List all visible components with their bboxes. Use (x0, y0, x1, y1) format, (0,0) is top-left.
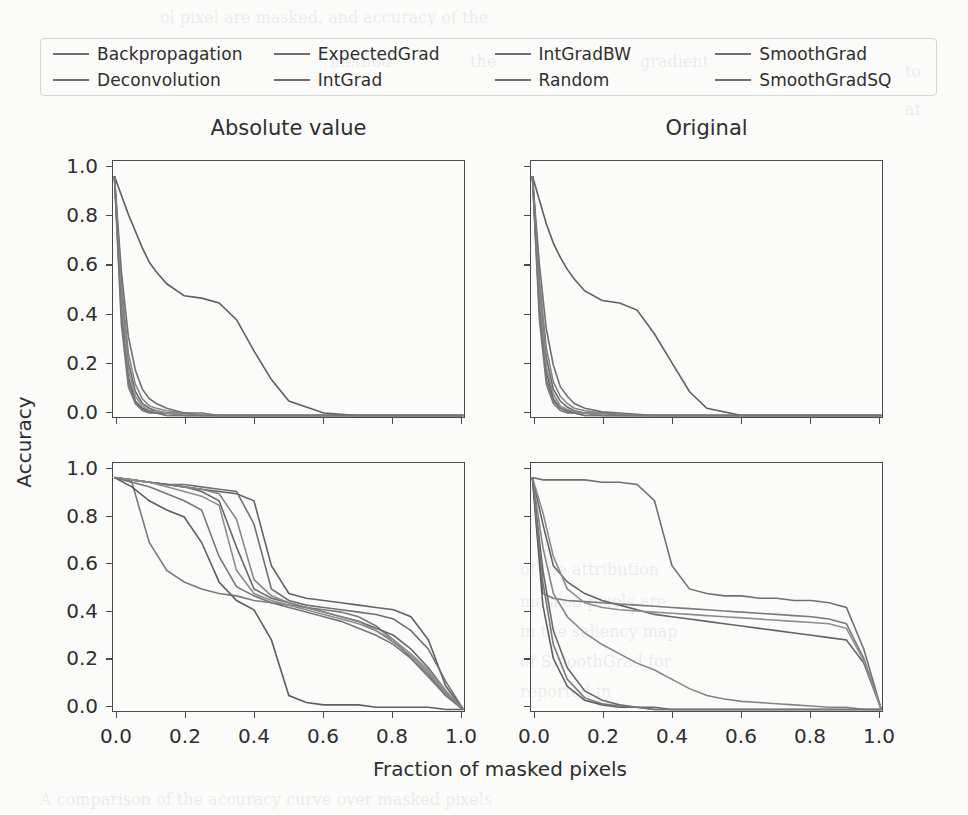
y-tick-mark (106, 516, 112, 517)
x-tick-label: 0.6 (713, 724, 769, 748)
y-tick-mark (524, 314, 530, 315)
y-tick-mark (524, 516, 530, 517)
y-tick-mark (524, 611, 530, 612)
curve-backpropagation (532, 176, 881, 415)
x-tick-mark (461, 418, 462, 424)
curve-expectedgrad (114, 176, 463, 415)
x-tick-mark (810, 418, 811, 424)
x-tick-label: 0.0 (506, 724, 562, 748)
plot-area-bottom-left (113, 463, 464, 711)
x-tick-mark (185, 418, 186, 424)
y-tick-mark (524, 706, 530, 707)
y-tick-mark (106, 468, 112, 469)
y-tick-label: 0.6 (32, 252, 98, 276)
x-tick-mark (603, 712, 604, 718)
legend-label: SmoothGrad (759, 44, 867, 64)
x-tick-mark (534, 418, 535, 424)
x-tick-mark (185, 712, 186, 718)
x-tick-label: 0.6 (295, 724, 351, 748)
x-tick-mark (672, 418, 673, 424)
curve-deconvolution (532, 176, 881, 415)
legend-line-icon (495, 53, 531, 55)
y-tick-mark (524, 166, 530, 167)
y-tick-label: 0.2 (32, 646, 98, 670)
x-tick-mark (116, 418, 117, 424)
subplot-bottom-right (530, 462, 883, 712)
y-tick-mark (106, 166, 112, 167)
legend-item-smoothgradsq[interactable]: SmoothGradSQ (709, 70, 930, 90)
x-tick-mark (254, 418, 255, 424)
x-tick-mark (879, 712, 880, 718)
x-tick-mark (603, 418, 604, 424)
curve-intgradbw (532, 176, 881, 415)
x-tick-mark (323, 712, 324, 718)
legend-item-intgrad[interactable]: IntGrad (268, 70, 489, 90)
legend-label: Backpropagation (97, 44, 243, 64)
legend-line-icon (274, 53, 310, 55)
legend-line-icon (53, 79, 89, 81)
legend-item-smoothgrad[interactable]: SmoothGrad (709, 44, 930, 64)
legend-item-backpropagation[interactable]: Backpropagation (47, 44, 268, 64)
y-tick-mark (106, 412, 112, 413)
legend-label: IntGrad (318, 70, 383, 90)
x-tick-mark (672, 712, 673, 718)
subplot-top-right (530, 160, 883, 418)
subplot-title-absolute-value: Absolute value (112, 116, 465, 140)
curve-smoothgradsq (114, 176, 463, 415)
legend-item-random[interactable]: Random (489, 70, 710, 90)
y-tick-mark (524, 264, 530, 265)
curve-intgradbw (114, 176, 463, 415)
legend-label: Random (539, 70, 610, 90)
y-tick-label: 0.8 (32, 203, 98, 227)
curve-intgrad (532, 176, 881, 415)
y-tick-label: 1.0 (32, 154, 98, 178)
y-tick-label: 0.8 (32, 504, 98, 528)
curve-expectedgrad (532, 176, 881, 415)
plot-area-top-left (113, 161, 464, 417)
curve-random (114, 176, 463, 415)
x-tick-mark (392, 418, 393, 424)
legend-label: ExpectedGrad (318, 44, 440, 64)
x-tick-mark (810, 712, 811, 718)
x-tick-mark (116, 712, 117, 718)
x-tick-label: 0.0 (88, 724, 144, 748)
subplot-bottom-left (112, 462, 465, 712)
y-tick-mark (524, 468, 530, 469)
y-tick-mark (106, 264, 112, 265)
curve-deconvolution (114, 176, 463, 415)
curve-backpropagation (114, 176, 463, 415)
x-tick-mark (534, 712, 535, 718)
y-tick-label: 0.0 (32, 400, 98, 424)
x-tick-mark (323, 418, 324, 424)
x-tick-label: 0.8 (782, 724, 838, 748)
curve-intgrad (114, 176, 463, 415)
legend-label: Deconvolution (97, 70, 221, 90)
x-tick-label: 1.0 (433, 724, 489, 748)
x-tick-label: 0.8 (364, 724, 420, 748)
y-tick-mark (524, 658, 530, 659)
legend-grid: BackpropagationExpectedGradIntGradBWSmoo… (41, 39, 936, 95)
x-tick-mark (741, 712, 742, 718)
y-tick-mark (106, 314, 112, 315)
y-tick-mark (524, 563, 530, 564)
y-tick-mark (106, 215, 112, 216)
curve-smoothgrad (532, 176, 881, 415)
chart-legend: BackpropagationExpectedGradIntGradBWSmoo… (40, 38, 937, 96)
y-tick-label: 0.0 (32, 694, 98, 718)
legend-item-intgradbw[interactable]: IntGradBW (489, 44, 710, 64)
y-tick-label: 0.4 (32, 302, 98, 326)
bleed-through-text: at (905, 100, 921, 119)
legend-item-deconvolution[interactable]: Deconvolution (47, 70, 268, 90)
curve-smoothgradsq (532, 176, 881, 415)
x-tick-mark (879, 418, 880, 424)
subplot-title-original: Original (530, 116, 883, 140)
plot-area-top-right (531, 161, 882, 417)
y-tick-label: 0.2 (32, 351, 98, 375)
y-tick-mark (106, 658, 112, 659)
y-tick-mark (524, 412, 530, 413)
x-tick-label: 0.4 (644, 724, 700, 748)
x-tick-label: 1.0 (851, 724, 907, 748)
legend-item-expectedgrad[interactable]: ExpectedGrad (268, 44, 489, 64)
bleed-through-text: A comparison of the accuracy curve over … (40, 790, 492, 809)
y-tick-mark (524, 215, 530, 216)
